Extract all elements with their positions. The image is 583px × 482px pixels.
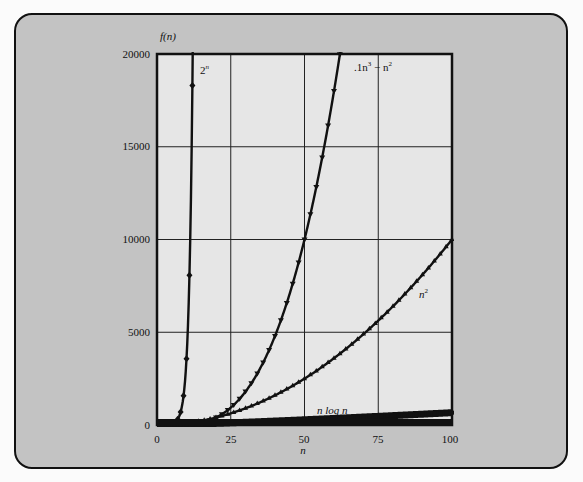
chart: 20000 15000 10000 5000 0 f(n) 0 25 50 75… — [0, 0, 583, 482]
marker — [444, 411, 448, 415]
ytick-20000: 20000 — [123, 48, 151, 60]
ytick-5000: 5000 — [128, 326, 151, 338]
marker — [415, 412, 419, 416]
marker — [438, 411, 442, 415]
marker — [385, 414, 389, 418]
marker — [350, 416, 354, 420]
xtick-0: 0 — [154, 433, 160, 445]
x-axis-title: n — [300, 444, 306, 456]
marker — [367, 415, 371, 419]
marker — [403, 413, 407, 417]
marker — [362, 415, 366, 419]
marker — [421, 412, 425, 416]
label-cubic: .1n3 − n2 — [354, 60, 392, 73]
ytick-10000: 10000 — [123, 233, 151, 245]
ytick-15000: 15000 — [123, 140, 151, 152]
marker — [409, 413, 413, 417]
xtick-75: 75 — [373, 433, 385, 445]
marker — [397, 413, 401, 417]
xtick-100: 100 — [442, 433, 459, 445]
nlogn-band — [157, 419, 452, 425]
marker — [391, 414, 395, 418]
xtick-25: 25 — [226, 433, 238, 445]
marker — [379, 414, 383, 418]
marker — [356, 415, 360, 419]
marker — [450, 411, 454, 415]
y-axis-title: f(n) — [160, 30, 176, 43]
marker — [432, 412, 436, 416]
ytick-0: 0 — [145, 419, 151, 431]
label-nlogn: n log n — [317, 404, 348, 416]
marker — [426, 412, 430, 416]
marker — [373, 414, 377, 418]
